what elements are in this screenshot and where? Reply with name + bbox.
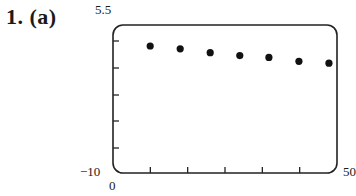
data-points [147,42,333,66]
data-point [207,49,214,56]
axis-ticks [113,41,300,173]
plot-frame [113,25,337,173]
data-point [236,52,243,59]
data-point [295,58,302,65]
data-point [177,45,184,52]
data-point [265,54,272,61]
data-point [325,60,332,67]
data-point [147,42,154,49]
